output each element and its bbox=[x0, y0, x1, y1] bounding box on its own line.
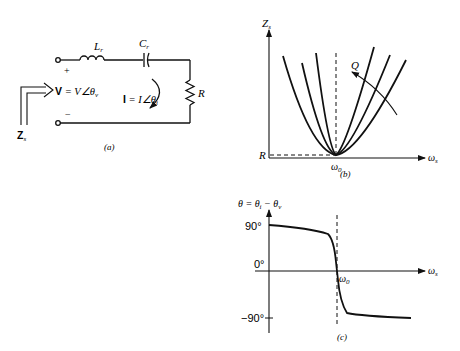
figure-c-label: (c) bbox=[337, 332, 347, 342]
tick-0: 0° bbox=[254, 258, 265, 270]
current-label: I = I∠θi bbox=[123, 93, 158, 107]
bottom-terminal bbox=[56, 121, 61, 126]
top-terminal bbox=[56, 58, 61, 63]
figure-a-label: (a) bbox=[104, 142, 115, 152]
impedance-arrow bbox=[21, 83, 53, 125]
q-label: Q bbox=[351, 59, 359, 71]
minus-sign: − bbox=[65, 109, 71, 120]
b-x-label: ωs bbox=[428, 152, 438, 165]
inductor-label: Lr bbox=[93, 40, 103, 54]
impedance-curves bbox=[283, 47, 406, 155]
c-x-label: ωs bbox=[428, 265, 438, 278]
r-tick-label: R bbox=[258, 149, 266, 161]
capacitor-label: Cr bbox=[139, 37, 149, 51]
figure-canvas: Lr Cr R + − V = V∠θv I = I∠θi Zs (a) Zs … bbox=[0, 0, 460, 351]
tick-90: 90° bbox=[245, 220, 262, 232]
circuit-diagram bbox=[21, 53, 194, 125]
tick-minus-90: −90° bbox=[241, 312, 264, 324]
c-y-label: θ = θi − θv bbox=[238, 198, 282, 211]
impedance-label: Zs bbox=[17, 129, 26, 143]
phase-plot bbox=[255, 210, 425, 333]
voltage-label: V = V∠θv bbox=[55, 85, 99, 99]
figure-b-label: (b) bbox=[340, 169, 351, 179]
c-w0-label: ω0 bbox=[339, 273, 350, 286]
plus-sign: + bbox=[64, 65, 70, 76]
impedance-plot bbox=[269, 30, 425, 158]
b-y-label: Zs bbox=[262, 17, 271, 31]
resistor-symbol bbox=[186, 80, 194, 105]
inductor-symbol bbox=[80, 56, 104, 60]
resistor-label: R bbox=[197, 87, 205, 99]
